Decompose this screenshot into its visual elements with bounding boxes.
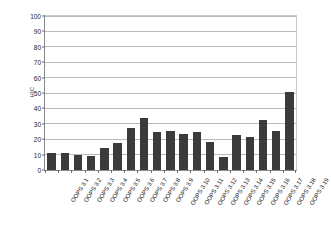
y-axis-tick-label: 90: [34, 28, 41, 35]
y-axis-tick-label: 60: [34, 74, 41, 81]
bar[interactable]: [100, 148, 108, 170]
y-axis-tick-label: 50: [34, 90, 41, 97]
bar-slot: [58, 16, 71, 170]
bar[interactable]: [259, 120, 267, 170]
bar-slot: [256, 16, 269, 170]
x-axis-labels-group: OOPS 3.1OOPS 3.2OOPS 3.3OOPS 3.4OOPS 3.5…: [44, 171, 297, 225]
bar-slot: [98, 16, 111, 170]
plot-area: 0102030405060708090100: [44, 15, 297, 171]
bar-slot: [217, 16, 230, 170]
bar-slot: [137, 16, 150, 170]
bar-slot: [164, 16, 177, 170]
bar-slot: [177, 16, 190, 170]
bar[interactable]: [232, 135, 240, 170]
y-axis-tick-label: 10: [34, 151, 41, 158]
bar[interactable]: [219, 157, 227, 170]
bar[interactable]: [246, 137, 254, 170]
bar[interactable]: [166, 131, 174, 170]
bar-slot: [124, 16, 137, 170]
bar-slot: [190, 16, 203, 170]
bar-slot: [45, 16, 58, 170]
bar[interactable]: [285, 92, 293, 170]
bar-slot: [270, 16, 283, 170]
bar[interactable]: [74, 155, 82, 170]
bar[interactable]: [179, 134, 187, 170]
bar[interactable]: [47, 153, 55, 170]
bar[interactable]: [272, 131, 280, 170]
bar[interactable]: [113, 143, 121, 170]
y-axis-tick-label: 70: [34, 59, 41, 66]
bar[interactable]: [140, 118, 148, 170]
bar-slot: [283, 16, 296, 170]
y-axis-tick-label: 0: [37, 167, 41, 174]
bars-group: [45, 16, 296, 170]
bar-slot: [204, 16, 217, 170]
bar[interactable]: [61, 153, 69, 170]
y-axis-tick-label: 80: [34, 43, 41, 50]
y-axis-tick-label: 30: [34, 120, 41, 127]
y-axis-tick-label: 100: [30, 13, 41, 20]
bar-slot: [111, 16, 124, 170]
bar-slot: [243, 16, 256, 170]
bar[interactable]: [153, 132, 161, 171]
y-axis-tick-label: 20: [34, 136, 41, 143]
bar[interactable]: [193, 132, 201, 170]
bar[interactable]: [127, 128, 135, 170]
bar-slot: [85, 16, 98, 170]
bar-slot: [230, 16, 243, 170]
bar[interactable]: [206, 142, 214, 170]
y-axis-tick-label: 40: [34, 105, 41, 112]
bar[interactable]: [87, 156, 95, 170]
bar-slot: [71, 16, 84, 170]
bar-slot: [151, 16, 164, 170]
